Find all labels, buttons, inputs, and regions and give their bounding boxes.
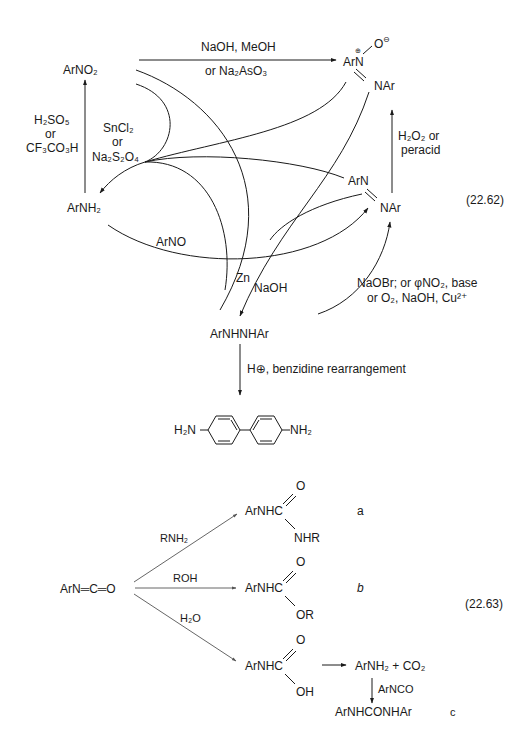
reaction-scheme: ArNO₂ ArNH₂ ArN ⊕ O ⊖ NAr ArN NAr ArNHNH… xyxy=(0,0,520,744)
product-b-bond xyxy=(285,596,295,606)
product-b-core: ArNHC xyxy=(245,581,283,595)
product-c-core: ArNHC xyxy=(245,659,283,673)
azo-compound: ArN NAr xyxy=(348,174,401,215)
reagent-zn: Zn xyxy=(236,271,250,285)
product-c-o: O xyxy=(296,633,305,647)
benzene-ring-1 xyxy=(208,416,240,444)
product-b-sub: OR xyxy=(296,608,314,622)
equation-22-62: ArNO₂ ArNH₂ ArN ⊕ O ⊖ NAr ArN NAr ArNHNH… xyxy=(26,35,504,444)
azoxy-arn: ArN xyxy=(343,55,364,69)
benzene-ring-2 xyxy=(250,416,282,444)
product-a-core: ArNHC xyxy=(245,504,283,518)
product-a-o: O xyxy=(296,479,305,493)
reagent-sncl2: SnCl₂ xyxy=(103,121,134,135)
azo-nar: NAr xyxy=(380,201,401,215)
reagent-or-1: or xyxy=(45,127,56,141)
equation-22-63: ArN═C═O RNH₂ ArNHC O NHR a ROH ArNHC O O… xyxy=(60,479,503,719)
curve-nitro-zn xyxy=(136,70,249,310)
azoxy-compound: ArN ⊕ O ⊖ NAr xyxy=(343,35,395,93)
arrow-branch-c xyxy=(134,594,236,661)
label-c: c xyxy=(450,706,456,718)
reagent-h2o: H₂O xyxy=(180,612,201,624)
label-b: b xyxy=(357,581,364,595)
curve-amine-to-azo xyxy=(108,208,368,259)
reagent-naoh: NaOH xyxy=(254,281,287,295)
curve-hydrazo-reduction xyxy=(145,162,227,290)
reagent-naoh-meoh: NaOH, MeOH xyxy=(201,40,276,54)
reagent-na2s2o4: Na₂S₂O₄ xyxy=(92,150,139,164)
nitro-compound: ArNO₂ xyxy=(63,63,98,77)
azo-double-bond-1 xyxy=(367,189,377,198)
benzidine-structure: H₂N NH₂ xyxy=(174,416,312,444)
decomposition-products: ArNH₂ + CO₂ xyxy=(355,659,426,673)
product-b-co-2 xyxy=(286,573,296,583)
product-b-co-1 xyxy=(283,571,293,581)
azo-double-bond-2 xyxy=(365,192,375,201)
isocyanate: ArN═C═O xyxy=(60,582,116,596)
product-c-sub: OH xyxy=(296,685,314,699)
reagent-benzidine: H⊕, benzidine rearrangement xyxy=(247,362,406,376)
n-n-double-bond-1 xyxy=(356,69,366,78)
curve-azo-connector xyxy=(270,194,362,240)
amine-compound: ArNH₂ xyxy=(67,201,101,215)
product-c-bond xyxy=(285,674,295,684)
equation-number-22-62: (22.62) xyxy=(466,193,504,207)
n-o-bond xyxy=(363,46,372,54)
urea-product: ArNHCONHAr xyxy=(335,705,412,719)
ring1-db3 xyxy=(231,420,237,430)
reagent-naobr: NaOBr; or φNO₂, base xyxy=(357,276,478,290)
ring2-db3 xyxy=(253,420,259,430)
product-c-co-2 xyxy=(286,651,296,661)
reagent-h2o2: H₂O₂ or xyxy=(398,129,439,143)
reagent-h2so5: H₂SO₅ xyxy=(34,113,70,127)
reagent-or-2: or xyxy=(112,135,123,149)
reagent-peracid: peracid xyxy=(401,143,440,157)
product-a-co-2 xyxy=(286,496,296,506)
reagent-roh: ROH xyxy=(173,572,198,584)
azoxy-nar: NAr xyxy=(374,79,395,93)
product-a-bond xyxy=(285,519,295,529)
benzidine-nh2: NH₂ xyxy=(290,423,312,437)
reagent-o2-cu: or O₂, NaOH, Cu²⁺ xyxy=(367,291,467,305)
reagent-na2aso3: or Na₂AsO₃ xyxy=(205,64,267,78)
azoxy-minus-charge: ⊖ xyxy=(383,35,390,44)
product-c: ArNHC O OH xyxy=(245,633,314,699)
reagent-rnh2: RNH₂ xyxy=(160,532,188,544)
product-b-o: O xyxy=(296,555,305,569)
product-a-sub: NHR xyxy=(294,531,320,545)
equation-number-22-63: (22.63) xyxy=(465,597,503,611)
product-a: ArNHC O NHR a xyxy=(245,479,364,545)
azoxy-oxygen: O xyxy=(374,37,383,51)
benzidine-h2n: H₂N xyxy=(174,423,196,437)
product-b: ArNHC O OR b xyxy=(245,555,364,622)
curve-nitro-reduction xyxy=(136,84,170,162)
curve-reduction-to-amine xyxy=(100,162,145,193)
product-c-co-1 xyxy=(283,649,293,659)
curve-azoxy-reduction xyxy=(145,82,346,162)
reagent-cf3co3h: CF₃CO₃H xyxy=(26,141,78,155)
n-n-double-bond-2 xyxy=(354,72,364,81)
label-a: a xyxy=(357,504,364,518)
azoxy-plus-charge: ⊕ xyxy=(355,47,361,54)
reagent-arno: ArNO xyxy=(156,235,186,249)
product-a-co-1 xyxy=(283,494,293,504)
hydrazo-compound: ArNHNHAr xyxy=(210,327,269,341)
reagent-arnco: ArNCO xyxy=(378,683,414,695)
azo-arn: ArN xyxy=(348,174,369,188)
